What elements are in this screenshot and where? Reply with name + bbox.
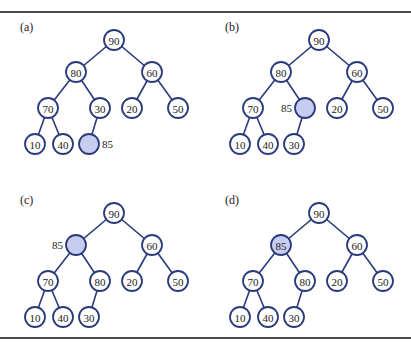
node-value: 40 [263, 139, 275, 151]
node-circle [66, 235, 86, 255]
node-value: 50 [378, 276, 390, 288]
node-value: 30 [289, 312, 301, 324]
node-value: 20 [127, 276, 139, 288]
heap-node: 50 [373, 271, 393, 291]
node-value: 10 [235, 312, 247, 324]
heap-node: 30 [284, 307, 304, 327]
node-value: 60 [352, 240, 364, 252]
heap-node: 30 [284, 134, 304, 154]
heap-node: 10 [25, 134, 45, 154]
heap-node: 90 [104, 203, 124, 223]
node-value: 90 [314, 35, 326, 47]
node-value: 60 [147, 67, 159, 79]
node-circle [295, 98, 315, 118]
heap-node: 60 [142, 235, 162, 255]
panel-a: (a) 90806070302050104085 [0, 0, 205, 165]
heap-node: 50 [168, 271, 188, 291]
heap-tree: 90856070802050104030 [205, 173, 410, 338]
heap-node: 20 [327, 271, 347, 291]
node-value: 80 [276, 67, 288, 79]
heap-node-inserted: 85 [281, 98, 315, 118]
node-value: 60 [147, 240, 159, 252]
heap-node: 70 [38, 271, 58, 291]
node-value: 40 [58, 139, 70, 151]
heap-node: 10 [25, 307, 45, 327]
heap-node: 40 [53, 134, 73, 154]
node-side-label: 85 [102, 138, 114, 150]
node-value: 50 [378, 103, 390, 115]
panel-b: (b) 90806070852050104030 [205, 0, 410, 165]
node-value: 10 [30, 139, 42, 151]
node-value: 80 [71, 67, 83, 79]
node-side-label: 85 [281, 102, 293, 114]
node-value: 70 [43, 103, 55, 115]
node-side-label: 85 [52, 239, 64, 251]
node-value: 90 [109, 208, 121, 220]
heap-node: 40 [258, 134, 278, 154]
heap-node: 70 [38, 98, 58, 118]
node-value: 10 [30, 312, 42, 324]
node-value: 20 [332, 103, 344, 115]
heap-node: 90 [309, 30, 329, 50]
node-value: 50 [173, 276, 185, 288]
node-value: 30 [289, 139, 301, 151]
heap-node-inserted: 85 [52, 235, 86, 255]
node-circle [79, 134, 99, 154]
heap-node: 60 [142, 62, 162, 82]
heap-tree: 90856070802050104030 [0, 173, 205, 338]
heap-node-inserted: 85 [271, 235, 291, 255]
heap-tree: 90806070302050104085 [0, 0, 205, 165]
panel-c: (c) 90856070802050104030 [0, 173, 205, 338]
heap-node: 50 [373, 98, 393, 118]
heap-node: 70 [243, 98, 263, 118]
node-value: 20 [127, 103, 139, 115]
heap-node: 70 [243, 271, 263, 291]
node-value: 70 [248, 103, 260, 115]
node-value: 70 [248, 276, 260, 288]
node-value: 30 [84, 312, 96, 324]
heap-node: 80 [66, 62, 86, 82]
heap-node: 80 [295, 271, 315, 291]
node-value: 60 [352, 67, 364, 79]
node-value: 30 [95, 103, 107, 115]
panel-d: (d) 90856070802050104030 [205, 173, 410, 338]
heap-node-inserted: 85 [79, 134, 114, 154]
node-value: 85 [276, 240, 288, 252]
heap-node: 20 [122, 98, 142, 118]
heap-node: 20 [122, 271, 142, 291]
heap-node: 30 [79, 307, 99, 327]
node-value: 90 [314, 208, 326, 220]
node-value: 20 [332, 276, 344, 288]
node-value: 80 [300, 276, 312, 288]
heap-node: 10 [230, 134, 250, 154]
heap-node: 80 [271, 62, 291, 82]
heap-node: 80 [90, 271, 110, 291]
heap-node: 90 [104, 30, 124, 50]
heap-node: 10 [230, 307, 250, 327]
node-value: 80 [95, 276, 107, 288]
node-value: 40 [263, 312, 275, 324]
node-value: 10 [235, 139, 247, 151]
heap-node: 90 [309, 203, 329, 223]
heap-node: 20 [327, 98, 347, 118]
heap-node: 30 [90, 98, 110, 118]
heap-tree: 90806070852050104030 [205, 0, 410, 165]
heap-node: 60 [347, 235, 367, 255]
heap-node: 40 [258, 307, 278, 327]
heap-node: 60 [347, 62, 367, 82]
node-value: 40 [58, 312, 70, 324]
heap-node: 40 [53, 307, 73, 327]
node-value: 70 [43, 276, 55, 288]
node-value: 50 [173, 103, 185, 115]
heap-node: 50 [168, 98, 188, 118]
node-value: 90 [109, 35, 121, 47]
